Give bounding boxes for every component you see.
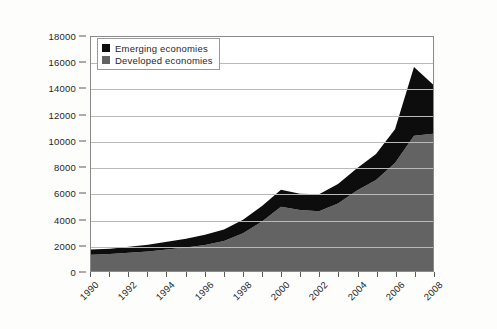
y-tick-label: 0 bbox=[71, 267, 76, 278]
y-tick-label: 16000 bbox=[49, 57, 76, 68]
x-tick-mark bbox=[262, 272, 263, 277]
y-tick-mark bbox=[79, 167, 86, 168]
legend-swatch-emerging bbox=[102, 44, 110, 52]
x-tick-mark bbox=[109, 272, 110, 277]
x-tick-mark bbox=[224, 272, 225, 277]
y-tick-mark bbox=[79, 245, 86, 246]
x-tick-mark bbox=[147, 272, 148, 277]
x-tick-mark bbox=[300, 272, 301, 277]
chart-figure: 0200040006000800010000120001400016000180… bbox=[0, 0, 497, 329]
y-tick-mark bbox=[79, 140, 86, 141]
gridline bbox=[91, 89, 433, 90]
chart-legend: Emerging economiesDeveloped economies bbox=[97, 38, 220, 70]
y-tick-mark bbox=[79, 114, 86, 115]
x-tick-mark bbox=[166, 272, 167, 277]
x-tick-mark bbox=[205, 272, 206, 277]
gridline bbox=[91, 142, 433, 143]
x-tick-label: 1992 bbox=[116, 279, 139, 302]
y-tick-mark bbox=[79, 219, 86, 220]
x-tick-label: 2000 bbox=[269, 279, 292, 302]
y-tick-label: 8000 bbox=[54, 162, 76, 173]
y-tick-label: 10000 bbox=[49, 135, 76, 146]
x-tick-label: 1996 bbox=[192, 279, 215, 302]
gridline bbox=[91, 116, 433, 117]
plot-area bbox=[90, 36, 434, 272]
legend-item: Emerging economies bbox=[102, 42, 213, 54]
y-tick-mark bbox=[79, 88, 86, 89]
x-axis: 1990199219941996199820002002200420062008 bbox=[90, 272, 434, 329]
y-tick-label: 14000 bbox=[49, 83, 76, 94]
x-tick-label: 2006 bbox=[383, 279, 406, 302]
y-tick-mark bbox=[79, 193, 86, 194]
x-tick-mark bbox=[319, 272, 320, 277]
y-tick-mark bbox=[79, 272, 86, 273]
x-tick-label: 2004 bbox=[345, 279, 368, 302]
y-tick-label: 2000 bbox=[54, 240, 76, 251]
stacked-area-series bbox=[91, 37, 433, 271]
y-tick-label: 18000 bbox=[49, 31, 76, 42]
x-tick-mark bbox=[434, 272, 435, 277]
y-tick-label: 4000 bbox=[54, 214, 76, 225]
x-tick-mark bbox=[396, 272, 397, 277]
y-tick-label: 12000 bbox=[49, 109, 76, 120]
x-tick-mark bbox=[415, 272, 416, 277]
gridline bbox=[91, 168, 433, 169]
x-tick-mark bbox=[90, 272, 91, 277]
x-tick-mark bbox=[377, 272, 378, 277]
y-tick-mark bbox=[79, 62, 86, 63]
legend-item: Developed economies bbox=[102, 54, 213, 66]
y-tick-label: 6000 bbox=[54, 188, 76, 199]
x-tick-mark bbox=[186, 272, 187, 277]
legend-label: Emerging economies bbox=[115, 43, 208, 54]
legend-swatch-developed bbox=[102, 56, 110, 64]
x-tick-label: 1994 bbox=[154, 279, 177, 302]
x-tick-mark bbox=[128, 272, 129, 277]
y-tick-mark bbox=[79, 36, 86, 37]
x-tick-label: 1998 bbox=[230, 279, 253, 302]
x-tick-label: 2002 bbox=[307, 279, 330, 302]
x-tick-mark bbox=[243, 272, 244, 277]
y-axis: 0200040006000800010000120001400016000180… bbox=[0, 0, 90, 329]
x-tick-mark bbox=[281, 272, 282, 277]
gridline bbox=[91, 221, 433, 222]
x-tick-label: 2008 bbox=[421, 279, 444, 302]
gridline bbox=[91, 194, 433, 195]
gridline bbox=[91, 247, 433, 248]
legend-label: Developed economies bbox=[115, 55, 213, 66]
x-tick-mark bbox=[338, 272, 339, 277]
x-tick-mark bbox=[358, 272, 359, 277]
